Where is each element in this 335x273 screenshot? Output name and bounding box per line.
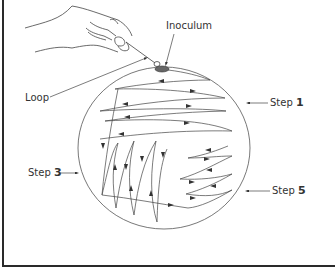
label-step-3-number: 3 (54, 166, 62, 179)
label-step-3: Step 3 (28, 167, 62, 179)
label-step-3-word: Step (28, 167, 51, 178)
label-step-1: Step 1 (270, 97, 304, 109)
label-step-1-word: Step (270, 97, 293, 108)
label-step-1-number: 1 (296, 96, 304, 109)
petri-dish (78, 67, 250, 229)
label-step-5: Step 5 (272, 185, 306, 197)
label-step-5-number: 5 (298, 184, 306, 197)
label-inoculum: Inoculum (166, 20, 212, 32)
label-loop: Loop (25, 92, 49, 104)
label-step-5-word: Step (272, 185, 295, 196)
leader-lines (50, 34, 270, 191)
streak-lines-step-1 (100, 70, 232, 139)
inoculum-smear (155, 66, 169, 72)
streak-plate-diagram (0, 0, 335, 273)
inoculating-loop-icon (126, 42, 160, 67)
hand-icon (25, 6, 132, 52)
streak-lines-step-5 (180, 146, 232, 208)
